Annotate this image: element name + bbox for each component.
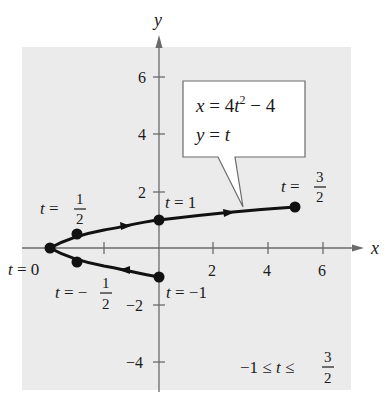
equation-y: y = t: [194, 124, 231, 145]
label-t-0: t = 0: [8, 260, 39, 279]
label-t-1: t = 1: [165, 193, 196, 212]
y-tick-label-6: 6: [138, 69, 146, 86]
point-t-neg-half: [72, 257, 83, 268]
equation-x: x = 4t2 − 4: [195, 93, 276, 116]
y-tick-label-2: 2: [138, 184, 146, 201]
point-t-half: [72, 229, 83, 240]
svg-text:2: 2: [76, 211, 84, 227]
svg-text:2: 2: [316, 189, 324, 205]
point-t-3-2: [290, 202, 301, 213]
parametric-plot: x y 2 4 6 6 4 2 −2 −4 x = 4t2 − 4 y = t: [0, 0, 387, 406]
svg-text:2: 2: [102, 296, 110, 312]
svg-text:t =: t =: [40, 199, 59, 218]
point-t-0: [45, 243, 56, 254]
point-t-1: [154, 215, 165, 226]
x-tick-label-2: 2: [208, 262, 216, 279]
svg-text:2: 2: [324, 370, 332, 386]
y-tick-label-4: 4: [138, 126, 146, 143]
svg-text:t =: t =: [281, 177, 300, 196]
svg-text:3: 3: [316, 169, 324, 185]
y-tick-label-neg4: −4: [126, 354, 143, 371]
x-tick-label-6: 6: [318, 262, 326, 279]
x-tick-label-4: 4: [263, 262, 271, 279]
svg-text:−1 ≤ t ≤: −1 ≤ t ≤: [240, 358, 294, 377]
x-axis-label: x: [370, 238, 379, 258]
svg-text:1: 1: [76, 191, 84, 207]
y-axis-arrow-icon: [156, 35, 163, 48]
point-t-neg1: [154, 272, 165, 283]
x-axis-arrow-icon: [352, 245, 364, 252]
svg-text:t = −: t = −: [55, 283, 87, 302]
y-tick-label-neg2: −2: [126, 297, 143, 314]
svg-text:1: 1: [102, 275, 110, 291]
label-t-neg1: t = −1: [166, 283, 207, 302]
y-axis-label: y: [152, 10, 162, 30]
svg-text:3: 3: [324, 349, 332, 365]
